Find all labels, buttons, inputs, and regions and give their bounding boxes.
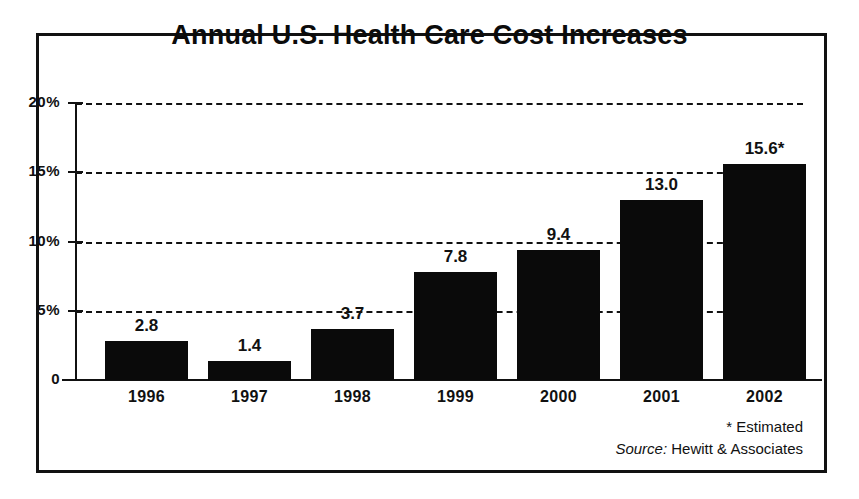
footnote-estimated: * Estimated [508, 416, 803, 437]
page-title: Annual U.S. Health Care Cost Increases [0, 20, 859, 51]
source-name-label: Hewitt & Associates [671, 440, 803, 457]
chart-notes: * Estimated Source: Hewitt & Associates [508, 416, 803, 460]
source-line: Source: Hewitt & Associates [508, 437, 803, 460]
chart-frame [36, 33, 827, 473]
source-prefix-label: Source: [615, 440, 667, 457]
